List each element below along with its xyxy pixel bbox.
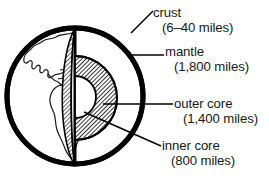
callout-mantle: mantle (1,800 miles) bbox=[165, 45, 249, 74]
callout-crust: crust (6–40 miles) bbox=[153, 6, 233, 35]
callout-crust-name: crust bbox=[153, 6, 233, 21]
callout-inner-core-name: inner core bbox=[162, 139, 235, 154]
callout-outer-core-name: outer core bbox=[174, 97, 258, 112]
callout-inner-core-depth: (800 miles) bbox=[162, 154, 235, 169]
globe-group bbox=[7, 28, 143, 166]
leader-line-crust bbox=[131, 11, 153, 33]
callout-mantle-name: mantle bbox=[165, 45, 249, 60]
callout-inner-core: inner core (800 miles) bbox=[162, 139, 235, 168]
callout-crust-depth: (6–40 miles) bbox=[153, 21, 233, 36]
callout-outer-core-depth: (1,400 miles) bbox=[174, 112, 258, 127]
earth-layers-figure: crust (6–40 miles) mantle (1,800 miles) … bbox=[0, 0, 269, 182]
callout-outer-core: outer core (1,400 miles) bbox=[174, 97, 258, 126]
callout-mantle-depth: (1,800 miles) bbox=[165, 60, 249, 75]
